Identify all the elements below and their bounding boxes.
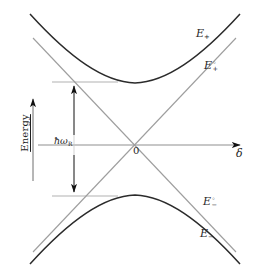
curve-label-e-plus-base: E [196, 27, 204, 40]
curve-label-e-plus-zero-affixes: ◦+ [213, 60, 219, 73]
curve-label-e-minus: E− [200, 228, 214, 241]
curve-label-e-plus-zero: E◦+ [204, 60, 218, 73]
upper-hyperbola-curve [30, 14, 240, 83]
curve-label-e-minus-zero-sub: − [212, 202, 218, 208]
rabi-splitting-label: ħωR [54, 136, 72, 148]
plot-canvas [0, 0, 261, 270]
x-axis-label: δ [236, 148, 243, 159]
curve-label-e-minus-zero-affixes: ◦− [212, 196, 218, 209]
curve-label-e-minus-zero: E◦− [203, 196, 217, 209]
y-axis-label: Energy [20, 101, 30, 165]
rabi-splitting-base: ħω [54, 135, 68, 146]
curve-label-e-minus-base: E [200, 227, 208, 240]
curve-label-e-plus: E+ [196, 28, 210, 41]
origin-label: 0 [133, 146, 139, 156]
curve-label-e-plus-sub: + [204, 33, 210, 41]
curve-label-e-plus-zero-sub: + [213, 66, 219, 72]
rabi-splitting-sub: R [68, 141, 72, 147]
energy-level-diagram: E+ E◦+ E◦− E− 0 δ ħωR Energy [0, 0, 261, 270]
curve-label-e-minus-sub: − [208, 233, 214, 241]
curve-label-e-minus-zero-base: E [203, 195, 211, 208]
curve-label-e-plus-zero-base: E [204, 59, 212, 72]
